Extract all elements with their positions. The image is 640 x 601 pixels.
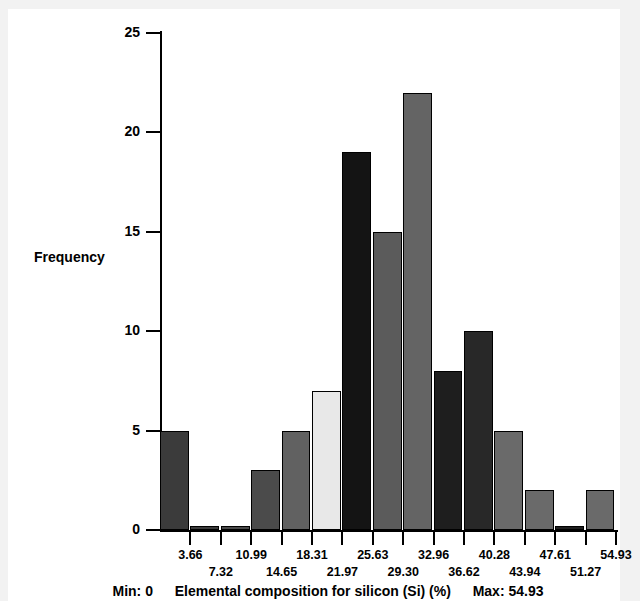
y-tick-label-wrap: 5	[96, 423, 140, 437]
x-tick-label-14.65: 14.65	[266, 566, 297, 579]
y-tick-15	[146, 231, 160, 233]
histogram-figure: Frequency 0510152025 3.667.3210.9914.651…	[0, 0, 640, 601]
x-tick-21.97	[341, 532, 343, 545]
bar-54.93	[586, 490, 615, 530]
x-tick-label-43.94: 43.94	[509, 566, 540, 579]
x-tick-36.62	[463, 532, 465, 545]
x-tick-18.31	[311, 532, 313, 545]
x-tick-7.32	[220, 532, 222, 545]
y-tick-25	[146, 32, 160, 34]
bar-10.99	[221, 526, 250, 530]
x-tick-label-29.30: 29.30	[388, 566, 419, 579]
bar-47.61	[525, 490, 554, 530]
y-tick-20	[146, 131, 160, 133]
bar-51.27	[555, 526, 584, 530]
bar-36.62	[434, 371, 463, 530]
y-tick-label: 15	[100, 224, 140, 238]
bar-7.32	[190, 526, 219, 530]
bar-18.31	[282, 431, 311, 530]
x-tick-label-18.31: 18.31	[296, 549, 327, 562]
y-tick-label: 25	[100, 25, 140, 39]
x-tick-label-54.93: 54.93	[600, 549, 631, 562]
x-tick-47.61	[554, 532, 556, 545]
bar-43.94	[494, 431, 523, 530]
bar-25.63	[342, 152, 371, 530]
x-tick-label-25.63: 25.63	[357, 549, 388, 562]
bar-21.97	[312, 391, 341, 530]
y-axis-label: Frequency	[34, 249, 105, 265]
x-axis-line	[160, 530, 618, 532]
x-tick-51.27	[585, 532, 587, 545]
y-tick-label-wrap: 25	[96, 25, 140, 39]
y-tick-0	[146, 529, 160, 531]
max-label: Max: 54.93	[473, 583, 544, 599]
x-tick-40.28	[493, 532, 495, 545]
bar-14.65	[251, 470, 280, 530]
bar-29.30	[373, 232, 402, 530]
y-tick-10	[146, 330, 160, 332]
y-tick-label: 20	[100, 124, 140, 138]
bars-area	[160, 33, 616, 530]
y-tick-label-wrap: 20	[96, 124, 140, 138]
x-axis-caption: Min: 0 Elemental composition for silicon…	[8, 583, 640, 599]
min-label: Min: 0	[113, 583, 153, 599]
y-tick-label-wrap: 15	[96, 224, 140, 238]
x-tick-32.96	[433, 532, 435, 545]
x-tick-label-32.96: 32.96	[418, 549, 449, 562]
x-tick-label-10.99: 10.99	[236, 549, 267, 562]
x-tick-29.30	[402, 532, 404, 545]
y-tick-label: 5	[100, 423, 140, 437]
x-tick-label-21.97: 21.97	[327, 566, 358, 579]
bar-3.66	[160, 431, 189, 530]
bar-40.28	[464, 331, 493, 530]
x-tick-label-3.66: 3.66	[178, 549, 202, 562]
x-tick-10.99	[250, 532, 252, 545]
x-tick-3.66	[189, 532, 191, 545]
bar-32.96	[403, 93, 432, 530]
x-tick-label-51.27: 51.27	[570, 566, 601, 579]
x-tick-25.63	[372, 532, 374, 545]
y-tick-label: 10	[100, 323, 140, 337]
x-tick-54.93	[615, 532, 617, 545]
x-tick-43.94	[524, 532, 526, 545]
x-axis-title: Elemental composition for silicon (Si) (…	[175, 583, 451, 599]
y-tick-5	[146, 430, 160, 432]
y-tick-label: 0	[100, 522, 140, 536]
x-tick-label-7.32: 7.32	[209, 566, 233, 579]
plot-paper: Frequency 0510152025 3.667.3210.9914.651…	[8, 9, 620, 601]
x-tick-label-47.61: 47.61	[540, 549, 571, 562]
y-tick-label-wrap: 10	[96, 323, 140, 337]
y-tick-label-wrap: 0	[96, 522, 140, 536]
x-tick-label-40.28: 40.28	[479, 549, 510, 562]
x-tick-14.65	[281, 532, 283, 545]
x-tick-label-36.62: 36.62	[448, 566, 479, 579]
